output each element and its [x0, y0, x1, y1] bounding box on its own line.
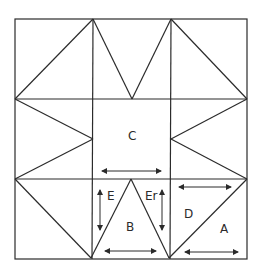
- top-right-diagonal: [171, 19, 247, 99]
- label-a: A: [220, 222, 229, 236]
- mid-right-upper-diagonal: [171, 99, 247, 139]
- mid-right-lower-diagonal: [171, 139, 247, 179]
- label-e: E: [107, 189, 115, 203]
- mid-left-upper-diagonal: [15, 99, 93, 139]
- mid-left-lower-diagonal: [15, 139, 93, 179]
- quilt-block-diagram: C E Er B D A: [0, 0, 264, 280]
- top-center-left-diagonal: [93, 19, 132, 99]
- top-center-right-diagonal: [132, 19, 171, 99]
- bottom-right-diagonal: [169, 179, 247, 258]
- label-c: C: [128, 129, 136, 143]
- top-left-diagonal: [15, 19, 93, 99]
- bottom-left-diagonal: [15, 179, 91, 258]
- label-d: D: [184, 207, 193, 221]
- label-b: B: [126, 220, 134, 234]
- grid-vertical-right: [170, 19, 171, 259]
- label-er: Er: [145, 189, 158, 203]
